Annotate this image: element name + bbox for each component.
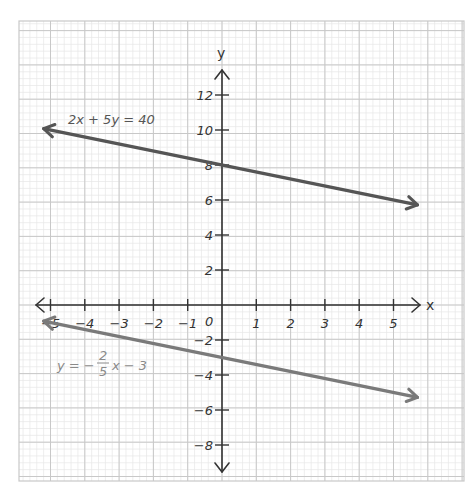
line-series-1 — [44, 125, 418, 209]
x-tick-label: −2 — [144, 316, 163, 331]
equation-label-2-numerator: 2 — [99, 348, 107, 363]
y-tick-label: 12 — [196, 88, 213, 103]
x-tick-label: 1 — [252, 316, 260, 331]
equation-label-2-suffix: x − 3 — [111, 358, 147, 373]
x-tick-label: 3 — [321, 316, 329, 331]
y-tick-label: −6 — [194, 403, 213, 418]
y-tick-label: −8 — [194, 438, 213, 453]
x-tick-label: 2 — [286, 316, 294, 331]
y-tick-label: 4 — [205, 228, 213, 243]
y-tick-label: 10 — [196, 123, 213, 138]
equation-label-2-prefix: y = − — [56, 358, 95, 373]
x-tick-label: −1 — [178, 316, 197, 331]
y-tick-label: −2 — [194, 333, 213, 348]
graph-paper-grid — [19, 21, 464, 481]
coordinate-plane-chart: −5−4−3−2−11234512108642−2−4−6−8 2x + 5y … — [0, 0, 476, 488]
x-tick-label: 5 — [389, 316, 397, 331]
x-tick-label: 4 — [355, 316, 363, 331]
equation-label-1: 2x + 5y = 40 — [68, 112, 155, 127]
equation-label-2: y = − 2 5 x − 3 — [56, 348, 147, 379]
origin-label: 0 — [205, 314, 213, 329]
y-tick-label: −4 — [194, 368, 213, 383]
equation-label-2-denominator: 5 — [99, 364, 107, 379]
x-tick-label: −3 — [110, 316, 129, 331]
y-tick-label: 2 — [205, 263, 213, 278]
y-tick-label: 6 — [205, 193, 213, 208]
grid-border — [19, 21, 464, 481]
y-axis-label: y — [217, 45, 225, 61]
x-axis-label: x — [426, 297, 434, 313]
